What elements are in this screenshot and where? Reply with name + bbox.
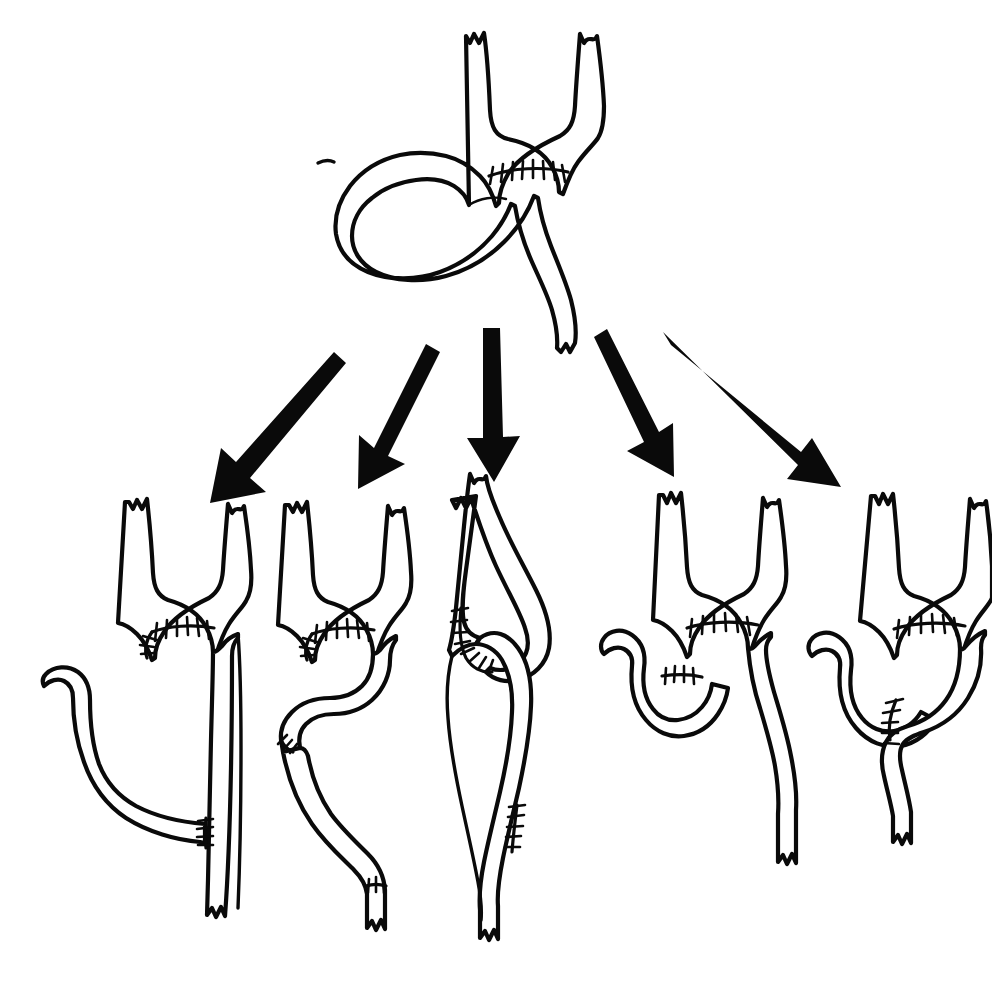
figure-canvas (0, 0, 992, 991)
surgical-reconstruction-figure: Gastrectomy reconstruction options Roux-… (0, 0, 992, 991)
option-2-distal-jejunal-suture (366, 877, 386, 893)
